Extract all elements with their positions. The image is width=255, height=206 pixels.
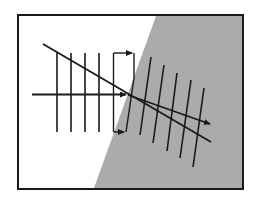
diagram-stage <box>0 0 255 206</box>
medium-2-region <box>94 16 242 188</box>
refraction-diagram <box>0 0 255 206</box>
